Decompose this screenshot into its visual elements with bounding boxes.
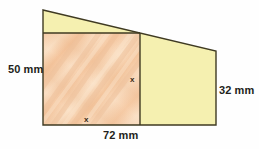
- variable-label-square-side-horizontal: x: [84, 115, 88, 124]
- variable-label-square-side-vertical: x: [130, 75, 134, 84]
- dimension-label-right-height: 32 mm: [219, 84, 254, 96]
- geometry-figure: 50 mm 32 mm 72 mm x x: [0, 0, 259, 149]
- inscribed-square-shape: [20, 20, 160, 136]
- dimension-label-left-height: 50 mm: [8, 63, 43, 75]
- dimension-label-base-width: 72 mm: [103, 129, 138, 141]
